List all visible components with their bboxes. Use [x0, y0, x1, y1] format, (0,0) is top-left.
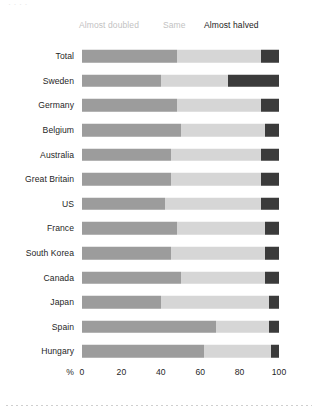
- bar-segment-almost-halved: [261, 198, 279, 211]
- bar-row-label: Sweden: [0, 69, 74, 94]
- stacked-bar: [82, 296, 279, 309]
- bar-segment-same: [171, 173, 262, 186]
- bar-segment-almost-doubled: [82, 222, 177, 235]
- bar-segment-almost-halved: [269, 321, 279, 334]
- bar-segment-almost-doubled: [82, 198, 165, 211]
- bar-segment-same: [181, 271, 266, 284]
- bar-row: France: [0, 216, 318, 241]
- bar-segment-almost-doubled: [82, 75, 161, 88]
- bar-segment-almost-halved: [265, 247, 279, 260]
- stacked-bar: [82, 271, 279, 284]
- bar-segment-almost-halved: [261, 99, 279, 112]
- bar-row: Australia: [0, 142, 318, 167]
- bottom-divider: [6, 405, 312, 406]
- axis-unit-label: %: [60, 367, 74, 377]
- x-axis-tick-label: 40: [156, 367, 166, 377]
- bar-segment-same: [171, 247, 266, 260]
- bar-row-label: Total: [0, 44, 74, 69]
- bar-row-label: Hungary: [0, 339, 74, 364]
- bar-row-label: Great Britain: [0, 167, 74, 192]
- bar-segment-almost-halved: [271, 345, 279, 358]
- legend-item-same: Same: [163, 19, 186, 31]
- stacked-bar: [82, 124, 279, 137]
- bar-row: Canada: [0, 265, 318, 290]
- stacked-bar: [82, 50, 279, 63]
- x-axis-tick-label: 80: [235, 367, 245, 377]
- bar-rows-container: TotalSwedenGermanyBelgiumAustraliaGreat …: [0, 44, 318, 366]
- bar-row-label: Canada: [0, 265, 74, 290]
- bar-row-label: France: [0, 216, 74, 241]
- bar-segment-same: [165, 198, 262, 211]
- bar-row: Hungary: [0, 339, 318, 364]
- bar-row: Total: [0, 44, 318, 69]
- legend-item-almost-doubled: Almost doubled: [79, 19, 139, 31]
- bar-segment-same: [161, 75, 228, 88]
- bar-segment-almost-halved: [261, 173, 279, 186]
- bar-segment-almost-doubled: [82, 173, 171, 186]
- bar-row-label: US: [0, 192, 74, 217]
- bar-row: Japan: [0, 290, 318, 315]
- bar-segment-almost-doubled: [82, 50, 177, 63]
- x-axis-tick-label: 0: [80, 367, 85, 377]
- bar-row: Belgium: [0, 118, 318, 143]
- stacked-bar: [82, 198, 279, 211]
- bar-segment-almost-halved: [261, 148, 279, 161]
- stacked-bar: [82, 222, 279, 235]
- bar-segment-almost-halved: [261, 50, 279, 63]
- cropped-title-sliver: · · · ·: [8, 0, 308, 7]
- bar-segment-same: [177, 222, 266, 235]
- bar-segment-same: [177, 50, 262, 63]
- stacked-bar: [82, 148, 279, 161]
- bar-segment-almost-halved: [265, 124, 279, 137]
- stacked-bar: [82, 321, 279, 334]
- bar-row: Sweden: [0, 69, 318, 94]
- bar-segment-almost-doubled: [82, 124, 181, 137]
- bar-row: Spain: [0, 315, 318, 340]
- x-axis-tick-label: 100: [272, 367, 286, 377]
- bar-row: South Korea: [0, 241, 318, 266]
- chart-legend: Almost doubled Same Almost halved: [0, 19, 318, 33]
- bar-row-label: Germany: [0, 93, 74, 118]
- bar-row-label: South Korea: [0, 241, 74, 266]
- stacked-bar: [82, 173, 279, 186]
- x-axis: % 020406080100: [0, 366, 318, 384]
- stacked-bar: [82, 345, 279, 358]
- bar-segment-same: [171, 148, 262, 161]
- x-axis-tick-label: 60: [195, 367, 205, 377]
- bar-segment-almost-doubled: [82, 99, 177, 112]
- bar-row-label: Spain: [0, 315, 74, 340]
- bar-segment-same: [161, 296, 269, 309]
- stacked-bar: [82, 99, 279, 112]
- legend-item-almost-halved: Almost halved: [204, 19, 259, 31]
- bar-row: Great Britain: [0, 167, 318, 192]
- stacked-bar: [82, 247, 279, 260]
- bar-segment-almost-halved: [269, 296, 279, 309]
- bar-segment-almost-doubled: [82, 296, 161, 309]
- bar-segment-almost-doubled: [82, 271, 181, 284]
- bar-segment-same: [216, 321, 269, 334]
- bar-row-label: Belgium: [0, 118, 74, 143]
- bar-row: Germany: [0, 93, 318, 118]
- bar-row: US: [0, 192, 318, 217]
- chart-figure: · · · · Almost doubled Same Almost halve…: [0, 0, 318, 416]
- x-axis-tick-label: 20: [117, 367, 127, 377]
- bar-segment-almost-doubled: [82, 321, 216, 334]
- bar-segment-same: [177, 99, 262, 112]
- bar-row-label: Japan: [0, 290, 74, 315]
- bar-segment-almost-doubled: [82, 345, 204, 358]
- bar-row-label: Australia: [0, 142, 74, 167]
- bar-segment-almost-halved: [228, 75, 279, 88]
- stacked-bar: [82, 75, 279, 88]
- bar-segment-almost-halved: [265, 222, 279, 235]
- bar-segment-same: [181, 124, 266, 137]
- bar-segment-same: [204, 345, 271, 358]
- bar-segment-almost-doubled: [82, 148, 171, 161]
- bar-segment-almost-halved: [265, 271, 279, 284]
- bar-segment-almost-doubled: [82, 247, 171, 260]
